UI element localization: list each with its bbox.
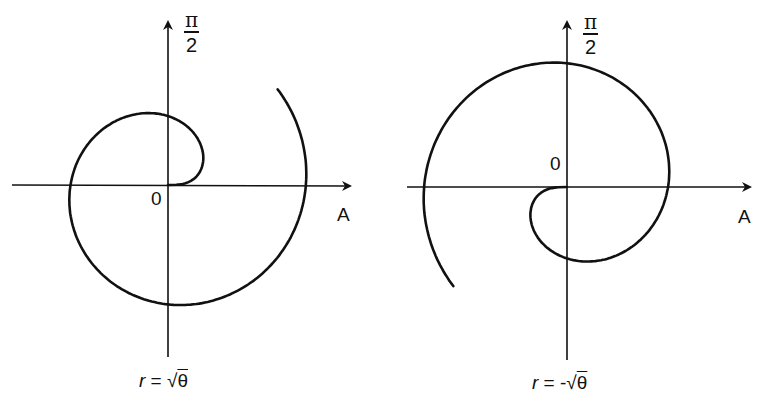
spiral-curve: [69, 89, 306, 305]
pi-symbol: π: [184, 10, 199, 33]
caption-theta: θ: [177, 370, 188, 391]
spiral-curve: [424, 63, 670, 287]
plot-canvas-right: [382, 0, 765, 418]
sqrt-symbol: √: [167, 370, 177, 391]
half-pi-label: π 2: [583, 12, 598, 57]
denominator-two: 2: [184, 33, 199, 55]
equation-caption: r = √θ: [139, 370, 188, 392]
polar-plot-sqrt-theta: π 2 0 A r = √θ: [0, 0, 382, 418]
caption-equals: =: [538, 372, 560, 393]
caption-theta: θ: [577, 372, 588, 393]
origin-label: 0: [550, 154, 561, 173]
pi-symbol: π: [583, 12, 598, 35]
plot-canvas-left: [0, 0, 382, 418]
polar-plot-neg-sqrt-theta: π 2 0 A r = -√θ: [382, 0, 765, 418]
sqrt-symbol: √: [566, 372, 576, 393]
denominator-two: 2: [583, 35, 598, 57]
polar-axis-label: A: [738, 207, 751, 226]
origin-label: 0: [151, 189, 162, 208]
polar-axis-label: A: [337, 205, 350, 224]
equation-caption: r = -√θ: [532, 372, 587, 394]
caption-equals: =: [145, 370, 167, 391]
half-pi-label: π 2: [184, 10, 199, 55]
